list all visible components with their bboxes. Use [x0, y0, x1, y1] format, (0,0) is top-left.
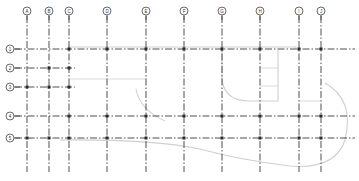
row-bubble-3[interactable]: 3 — [6, 83, 20, 91]
column-node[interactable] — [68, 115, 71, 118]
column-node[interactable] — [68, 67, 71, 70]
column-bubbles: A B C D E F G H I J — [23, 7, 325, 20]
column-label: H — [258, 9, 261, 14]
column-bubble-H[interactable]: H — [256, 7, 264, 20]
row-bubble-2[interactable]: 2 — [6, 64, 20, 72]
column-label: B — [47, 9, 50, 14]
column-node[interactable] — [26, 86, 29, 89]
column-node[interactable] — [259, 48, 262, 51]
column-node[interactable] — [259, 137, 262, 140]
room-u — [222, 50, 278, 101]
column-label: I — [298, 9, 299, 14]
column-node[interactable] — [221, 115, 224, 118]
column-bubble-J[interactable]: J — [317, 7, 325, 20]
column-bubble-B[interactable]: B — [45, 7, 53, 20]
building-outline — [60, 47, 348, 166]
column-bubble-A[interactable]: A — [23, 7, 31, 20]
column-node[interactable] — [26, 137, 29, 140]
column-node[interactable] — [183, 115, 186, 118]
column-label: G — [220, 9, 224, 14]
column-node[interactable] — [320, 48, 323, 51]
column-node[interactable] — [183, 137, 186, 140]
column-grid-lines — [27, 16, 321, 172]
column-label: E — [144, 9, 147, 14]
column-node[interactable] — [298, 115, 301, 118]
curve-right — [60, 83, 348, 166]
column-node[interactable] — [106, 137, 109, 140]
column-node[interactable] — [183, 48, 186, 51]
column-label: A — [25, 9, 28, 14]
grid-plan-drawing: A B C D E F G H I J 1 2 3 4 5 — [0, 0, 359, 181]
column-bubble-C[interactable]: C — [65, 7, 73, 20]
column-node[interactable] — [298, 48, 301, 51]
row-bubble-1[interactable]: 1 — [6, 45, 20, 53]
column-node[interactable] — [145, 48, 148, 51]
column-bubble-E[interactable]: E — [142, 7, 150, 20]
column-bubble-D[interactable]: D — [103, 7, 111, 20]
column-node[interactable] — [106, 48, 109, 51]
column-node[interactable] — [221, 137, 224, 140]
column-node[interactable] — [221, 48, 224, 51]
column-bubble-G[interactable]: G — [218, 7, 226, 20]
column-node[interactable] — [145, 137, 148, 140]
column-label: J — [320, 9, 322, 14]
column-node[interactable] — [320, 137, 323, 140]
row-bubbles: 1 2 3 4 5 — [6, 45, 20, 142]
column-node[interactable] — [68, 86, 71, 89]
column-node[interactable] — [48, 67, 51, 70]
column-bubble-F[interactable]: F — [180, 7, 188, 20]
column-node[interactable] — [48, 137, 51, 140]
column-node[interactable] — [298, 137, 301, 140]
column-bubble-I[interactable]: I — [295, 7, 303, 20]
column-node[interactable] — [48, 86, 51, 89]
column-node[interactable] — [68, 48, 71, 51]
column-node[interactable] — [68, 137, 71, 140]
row-bubble-4[interactable]: 4 — [6, 112, 20, 120]
row-bubble-5[interactable]: 5 — [6, 134, 20, 142]
column-node[interactable] — [106, 115, 109, 118]
column-node[interactable] — [320, 115, 323, 118]
column-node[interactable] — [145, 115, 148, 118]
column-label: F — [183, 9, 186, 14]
row-grid-lines — [15, 49, 355, 138]
column-node[interactable] — [259, 115, 262, 118]
